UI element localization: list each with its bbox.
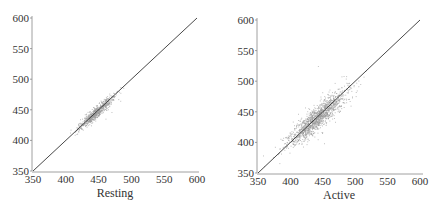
x-axis-title: Active xyxy=(323,188,355,202)
identity-line xyxy=(33,18,197,171)
y-tick-label: 400 xyxy=(13,134,30,146)
scatter-panel-resting: 350400450500550600350400450500550600Rest… xyxy=(13,12,206,200)
x-tick-label: 500 xyxy=(347,175,364,187)
x-axis-title: Resting xyxy=(97,186,134,200)
identity-line xyxy=(258,20,420,173)
x-tick-label: 600 xyxy=(412,175,429,187)
x-tick-label: 400 xyxy=(58,173,75,185)
data-points xyxy=(263,66,366,167)
x-tick-label: 600 xyxy=(189,173,206,185)
chart-canvas: 350400450500550600350400450500550600Rest… xyxy=(0,0,436,210)
x-tick-label: 350 xyxy=(250,175,267,187)
x-tick-label: 550 xyxy=(379,175,396,187)
y-tick-label: 600 xyxy=(238,14,255,26)
scatter-panel-active: 350400450500550600350400450500550600Acti… xyxy=(238,14,429,202)
x-tick-label: 350 xyxy=(25,173,42,185)
x-tick-label: 450 xyxy=(90,173,107,185)
y-tick-label: 550 xyxy=(238,45,255,57)
y-tick-label: 500 xyxy=(13,73,30,85)
y-tick-label: 600 xyxy=(13,12,30,24)
x-tick-label: 550 xyxy=(156,173,173,185)
x-tick-label: 400 xyxy=(282,175,299,187)
y-tick-label: 400 xyxy=(238,136,255,148)
y-tick-label: 450 xyxy=(13,104,30,116)
x-tick-label: 500 xyxy=(123,173,140,185)
x-tick-label: 450 xyxy=(315,175,332,187)
y-tick-label: 450 xyxy=(238,106,255,118)
y-tick-label: 500 xyxy=(238,75,255,87)
y-tick-label: 550 xyxy=(13,43,30,55)
